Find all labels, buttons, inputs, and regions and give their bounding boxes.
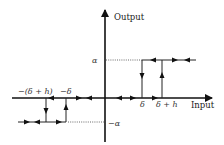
arrow-left-icon	[184, 58, 190, 63]
delta-plus-h-label: δ + h	[156, 100, 178, 109]
upper-arrows	[140, 58, 191, 80]
arrow-left-icon	[48, 96, 54, 101]
arrow-up-icon	[160, 72, 165, 78]
x-axis-label: Input	[191, 100, 215, 110]
arrow-left-icon	[116, 96, 122, 101]
neg-delta-label: −δ	[60, 87, 72, 96]
hysteresis-diagram: Output Input α −α δ δ + h −δ −(δ + h)	[0, 0, 224, 145]
delta-label: δ	[140, 100, 145, 109]
arrow-right-icon	[56, 120, 62, 125]
arrow-down-icon	[140, 73, 145, 79]
arrow-left-icon	[86, 96, 92, 101]
arrow-right-icon	[24, 120, 30, 125]
upper-branch	[142, 60, 196, 98]
arrow-right-icon	[76, 96, 82, 101]
arrow-up-icon	[64, 104, 69, 110]
arrow-left-icon	[150, 58, 156, 63]
neg-delta-plus-h-label: −(δ + h)	[18, 87, 53, 96]
y-axis-label: Output	[114, 12, 145, 22]
arrow-left-icon	[34, 120, 40, 125]
arrow-down-icon	[44, 108, 49, 114]
neg-alpha-label: −α	[108, 119, 121, 128]
arrow-right-icon	[130, 96, 136, 101]
lower-branch	[18, 98, 66, 122]
arrow-right-icon	[172, 58, 178, 63]
alpha-label: α	[92, 56, 98, 65]
